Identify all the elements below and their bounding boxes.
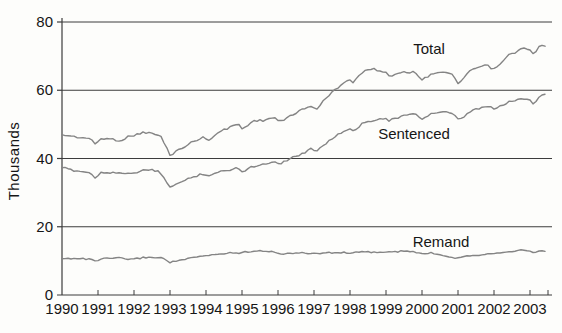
y-tick-label-20: 20: [36, 218, 53, 235]
x-tick-label-1996: 1996: [261, 300, 294, 317]
x-tick-label-1990: 1990: [45, 300, 78, 317]
prison-population-chart-figure: 0204060801990199119921993199419951996199…: [0, 0, 562, 333]
chart-generated-layer: 0204060801990199119921993199419951996199…: [36, 13, 552, 317]
y-tick-label-80: 80: [36, 13, 53, 30]
y-tick-label-40: 40: [36, 150, 53, 167]
x-tick-label-1998: 1998: [333, 300, 366, 317]
x-tick-label-1999: 1999: [369, 300, 402, 317]
x-tick-label-1992: 1992: [117, 300, 150, 317]
x-tick-label-1994: 1994: [189, 300, 222, 317]
x-tick-label-1995: 1995: [225, 300, 258, 317]
series-label-total: Total: [413, 40, 445, 57]
x-tick-label-1993: 1993: [153, 300, 186, 317]
x-tick-label-2000: 2000: [405, 300, 438, 317]
x-tick-label-2002: 2002: [477, 300, 510, 317]
series-line-remand: [62, 250, 545, 263]
x-tick-label-1991: 1991: [81, 300, 114, 317]
chart-svg: 0204060801990199119921993199419951996199…: [0, 0, 562, 333]
series-label-remand: Remand: [413, 233, 470, 250]
x-tick-label-1997: 1997: [297, 300, 330, 317]
series-line-total: [62, 45, 545, 155]
series-line-sentenced: [62, 94, 545, 187]
x-tick-label-2003: 2003: [513, 300, 546, 317]
y-axis-title: Thousands: [5, 122, 22, 201]
x-tick-label-2001: 2001: [441, 300, 474, 317]
series-label-sentenced: Sentenced: [378, 125, 450, 142]
y-tick-label-60: 60: [36, 81, 53, 98]
